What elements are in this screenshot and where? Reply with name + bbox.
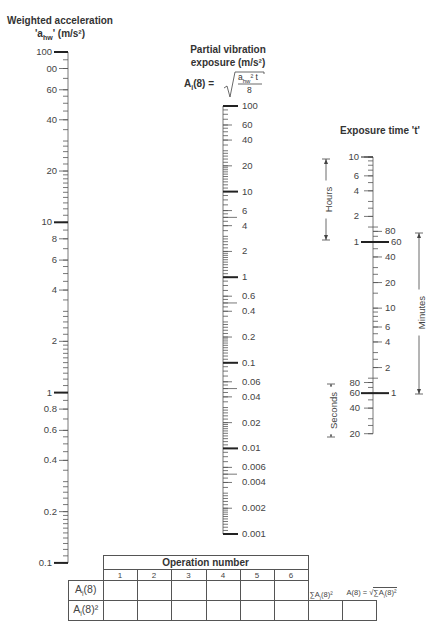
acceleration-tick-label: 6 [52, 255, 57, 265]
cell-ai8sq-op6[interactable] [274, 601, 308, 621]
partial-exposure-tick-label: 0.001 [242, 529, 266, 539]
partial-exposure-tick-label: 0.4 [242, 306, 255, 316]
acceleration-tick-label: 0.1 [39, 558, 52, 568]
minutes-tick-label: 80 [385, 226, 396, 236]
partial-exposure-tick-label: 4 [242, 221, 247, 231]
acceleration-tick-label: 100 [36, 47, 52, 57]
acceleration-tick-label: 8 [52, 234, 57, 244]
acceleration-scale-ticks [54, 52, 68, 563]
acceleration-tick-label: 00 [46, 64, 57, 74]
partial-exposure-tick-label: 10 [242, 187, 253, 197]
minutes-label: Minutes [416, 290, 427, 336]
acceleration-tick-label: 1 [47, 388, 52, 398]
sum-label: ∑Ai(8)² [308, 581, 343, 601]
total-label: A(8) = √∑Ai(8)² [343, 581, 377, 601]
partial-exposure-tick-label: 0.06 [242, 377, 261, 387]
column-header-1: 1 [103, 570, 137, 581]
acceleration-tick-label: 0.6 [44, 425, 57, 435]
minutes-tick-label: 10 [385, 303, 396, 313]
hours-tick-label: 10 [348, 152, 359, 162]
partial-exposure-tick-label: 0.004 [242, 477, 266, 487]
row-label-ai8: Ai(8) [69, 581, 104, 601]
partial-exposure-tick-label: 40 [242, 135, 253, 145]
operation-number-header: Operation number [103, 556, 308, 570]
minutes-tick-label: 2 [385, 363, 390, 373]
partial-exposure-tick-label: 0.002 [242, 503, 266, 513]
hours-tick-label: 2 [354, 211, 359, 221]
seconds-label: Seconds [328, 387, 339, 435]
acceleration-tick-label: 0.8 [44, 404, 57, 414]
cell-ai8sq-op3[interactable] [171, 601, 206, 621]
minutes-tick-label: 20 [385, 278, 396, 288]
hours-tick-label: 1 [354, 237, 359, 247]
exposure-time-scale-ticks [361, 157, 389, 434]
cell-ai8sq-op5[interactable] [240, 601, 274, 621]
partial-exposure-tick-label: 1 [242, 272, 247, 282]
row-label-ai8-squared: Ai(8)² [69, 601, 104, 621]
column-header-6: 6 [274, 570, 308, 581]
cell-ai8-op4[interactable] [206, 581, 240, 601]
minutes-tick-label: 40 [385, 252, 396, 262]
partial-exposure-scale-ticks [223, 106, 238, 534]
partial-exposure-tick-label: 2 [242, 246, 247, 256]
partial-exposure-tick-label: 0.6 [242, 291, 255, 301]
cell-ai8-op3[interactable] [171, 581, 206, 601]
cell-ai8-op6[interactable] [274, 581, 308, 601]
acceleration-tick-label: 10 [41, 217, 52, 227]
cell-ai8sq-op2[interactable] [137, 601, 171, 621]
operation-table: Operation number 1 2 3 4 5 6 Ai(8) ∑Ai(8… [68, 555, 377, 621]
partial-exposure-tick-label: 0.1 [242, 358, 255, 368]
hours-tick-label: 6 [354, 171, 359, 181]
partial-exposure-tick-label: 0.2 [242, 332, 255, 342]
acceleration-tick-label: 2 [52, 336, 57, 346]
acceleration-tick-label: 60 [46, 85, 57, 95]
partial-exposure-tick-label: 0.01 [242, 443, 261, 453]
nomogram-scales [0, 0, 438, 637]
seconds-tick-label: 40 [349, 403, 360, 413]
cell-total-a8[interactable] [343, 601, 377, 621]
hours-label: Hours [323, 181, 334, 219]
minutes-tick-label: 60 [391, 237, 402, 247]
partial-exposure-tick-label: 0.02 [242, 418, 261, 428]
column-header-3: 3 [171, 570, 206, 581]
acceleration-tick-label: 4 [52, 285, 57, 295]
partial-exposure-tick-label: 20 [242, 161, 253, 171]
partial-exposure-tick-label: 6 [242, 206, 247, 216]
cell-ai8-op1[interactable] [103, 581, 137, 601]
seconds-tick-label: 80 [349, 378, 360, 388]
acceleration-tick-label: 40 [46, 115, 57, 125]
seconds-tick-label: 20 [349, 429, 360, 439]
cell-sum-ai8sq[interactable] [308, 601, 343, 621]
cell-ai8-op5[interactable] [240, 581, 274, 601]
cell-ai8-op2[interactable] [137, 581, 171, 601]
seconds-tick-label: 60 [349, 388, 360, 398]
partial-exposure-tick-label: 0.006 [242, 462, 266, 472]
acceleration-tick-label: 0.4 [44, 455, 57, 465]
minutes-tick-label: 4 [385, 337, 390, 347]
cell-ai8sq-op1[interactable] [103, 601, 137, 621]
column-header-4: 4 [206, 570, 240, 581]
cell-ai8sq-op4[interactable] [206, 601, 240, 621]
column-header-2: 2 [137, 570, 171, 581]
acceleration-tick-label: 20 [46, 166, 57, 176]
partial-exposure-tick-label: 100 [242, 101, 258, 111]
hours-tick-label: 4 [354, 186, 359, 196]
acceleration-tick-label: 0.2 [44, 507, 57, 517]
minutes-tick-label: 1 [391, 388, 396, 398]
partial-exposure-tick-label: 0.04 [242, 392, 261, 402]
partial-exposure-tick-label: 60 [242, 120, 253, 130]
minutes-tick-label: 6 [385, 322, 390, 332]
column-header-5: 5 [240, 570, 274, 581]
